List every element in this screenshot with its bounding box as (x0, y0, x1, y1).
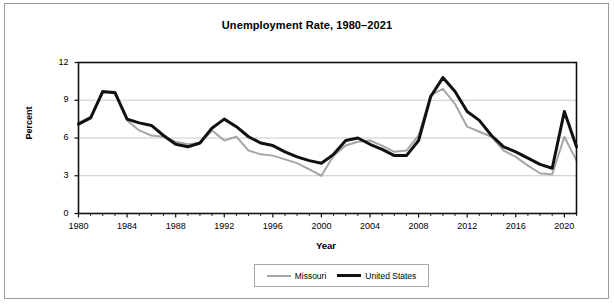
y-tick-label: 3 (43, 171, 69, 180)
legend-item-missouri[interactable]: Missouri (267, 271, 327, 281)
x-tick-label: 1992 (204, 222, 244, 231)
series-line-missouri (79, 89, 577, 176)
y-tick-label: 0 (43, 209, 69, 218)
x-tick-label: 1996 (253, 222, 293, 231)
data-series-layer (79, 78, 577, 176)
x-tick-label: 2012 (447, 222, 487, 231)
chart-legend: Missouri United States (254, 264, 429, 287)
legend-label-united-states: United States (365, 271, 416, 281)
chart-figure: Unemployment Rate, 1980–2021 Percent Yea… (0, 0, 614, 305)
legend-label-missouri: Missouri (295, 271, 327, 281)
legend-item-united-states[interactable]: United States (337, 271, 416, 281)
series-line-united-states (79, 78, 577, 169)
x-tick-label: 1988 (156, 222, 196, 231)
x-axis-title: Year (74, 240, 578, 251)
plot-area-wrapper: Percent Year 036912 19801984198819921996… (0, 0, 614, 305)
x-tick-label: 1984 (107, 222, 147, 231)
x-tick-label: 1980 (59, 222, 99, 231)
legend-line-swatch-missouri (267, 275, 291, 277)
y-tick-label: 9 (43, 95, 69, 104)
x-tick-label: 2020 (544, 222, 584, 231)
y-tick-label: 12 (43, 58, 69, 67)
legend-line-swatch-united-states (337, 274, 361, 277)
x-tick-label: 2016 (496, 222, 536, 231)
x-tick-label: 2008 (399, 222, 439, 231)
x-tick-label: 2004 (350, 222, 390, 231)
y-axis-title: Percent (24, 83, 34, 163)
x-tick-label: 2000 (301, 222, 341, 231)
y-tick-label: 6 (43, 133, 69, 142)
plot-svg (0, 0, 614, 305)
